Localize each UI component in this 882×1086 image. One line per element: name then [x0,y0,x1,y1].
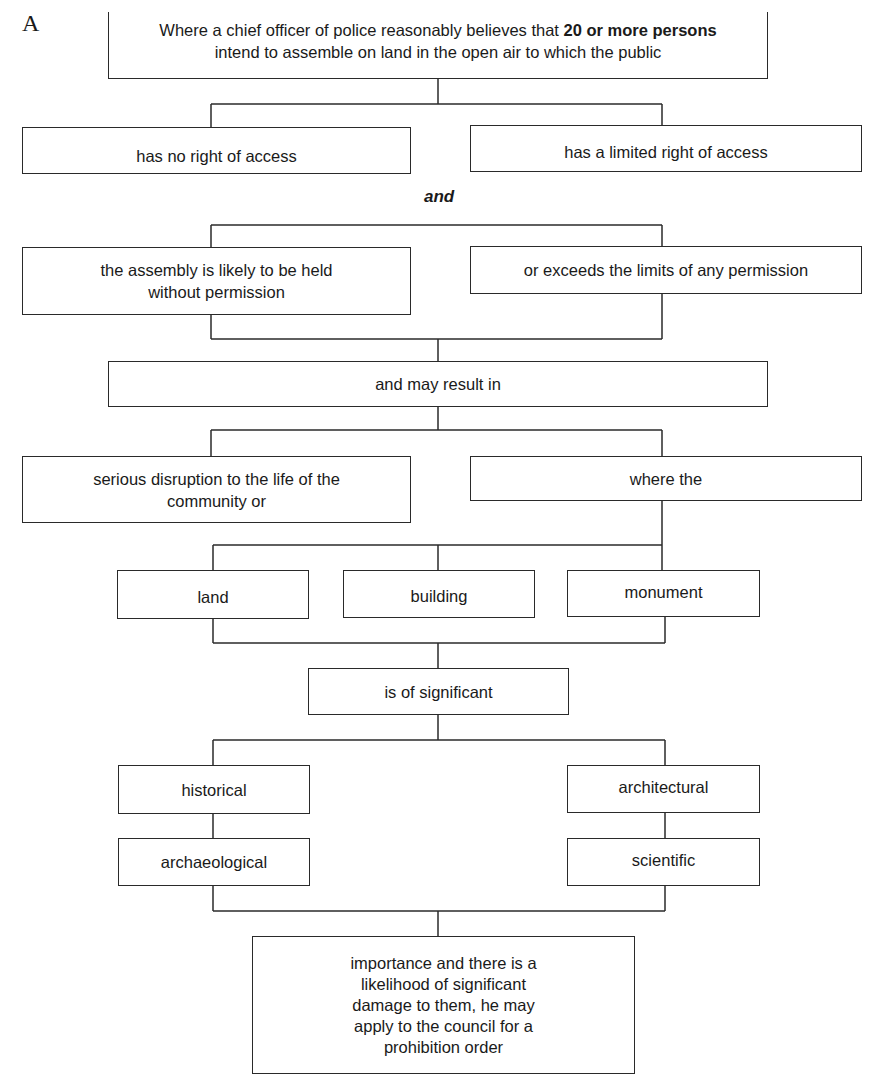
without-permission-box: the assembly is likely to be held withou… [22,247,411,315]
where-the-box: where the [470,456,862,501]
type-architectural-box: architectural [567,765,760,813]
no-right-of-access-box: has no right of access [22,127,411,174]
type-archaeological-box: archaeological [118,838,310,886]
figure-label: A [22,10,39,37]
may-result-in-box: and may result in [108,361,768,407]
and-connector-label: and [424,187,454,207]
type-scientific-box: scientific [567,838,760,886]
root-text-line2: intend to assemble on land in the open a… [159,41,716,63]
root-condition-box: Where a chief officer of police reasonab… [108,12,768,79]
place-building-box: building [343,570,535,618]
serious-disruption-box: serious disruption to the life of the co… [22,456,411,523]
root-text: Where a chief officer of police reasonab… [159,21,563,39]
exceeds-permission-box: or exceeds the limits of any permission [470,246,862,294]
root-bold-text: 20 or more persons [564,21,717,39]
limited-right-of-access-box: has a limited right of access [470,125,862,172]
place-monument-box: monument [567,570,760,617]
place-land-box: land [117,570,309,619]
is-of-significant-box: is of significant [308,668,569,715]
type-historical-box: historical [118,765,310,814]
conclusion-box: importance and there is a likelihood of … [252,936,635,1074]
